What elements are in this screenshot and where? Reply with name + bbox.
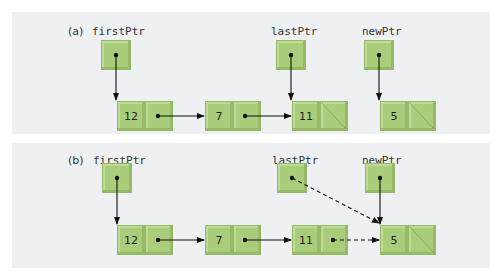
arrows-overlay [0,0,501,278]
pointer-dot-icon [243,238,247,242]
arrow-lastPtr-to-5-b [292,178,379,223]
pointer-dot-icon [156,238,160,242]
pointer-dot-icon [378,176,382,180]
pointer-dot-icon [331,238,335,242]
null-slash-icon [410,103,434,129]
pointer-dot-icon [290,176,294,180]
pointer-dot-icon [114,53,118,57]
pointer-dot-icon [289,53,293,57]
pointer-dot-icon [243,114,247,118]
pointer-dot-icon [156,114,160,118]
pointer-dot-icon [377,53,381,57]
pointer-dot-icon [115,176,119,180]
null-slash-icon [410,227,434,253]
null-slash-icon [322,103,346,129]
